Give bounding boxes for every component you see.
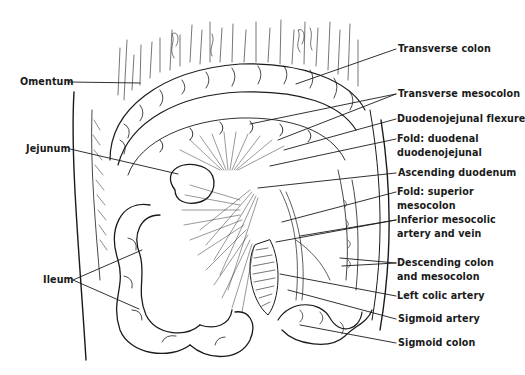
label-jejunum: Jejunum (26, 143, 71, 155)
label-sigmoid-artery: Sigmoid artery (398, 313, 480, 325)
label-omentum: Omentum (20, 76, 74, 88)
label-fold-duodenal-line2: duodenojejunal (397, 147, 482, 159)
label-ascending-duodenum: Ascending duodenum (398, 167, 516, 179)
label-sigmoid-colon: Sigmoid colon (398, 337, 475, 349)
mesocolic-vessels (280, 190, 330, 300)
left-wall (73, 92, 86, 360)
mesentery-fan (180, 132, 284, 312)
omentum-strands (118, 20, 358, 100)
right-wall (380, 120, 389, 330)
label-fold-superior: Fold: superior (397, 186, 474, 198)
label-inferior-mesocolic: Inferior mesocolic (397, 214, 496, 226)
label-descending-colon-line2: and mesocolon (397, 271, 480, 283)
transverse-colon (110, 64, 365, 165)
label-left-colic-artery: Left colic artery (397, 290, 485, 302)
label-inferior-mesocolic-line2: artery and vein (397, 228, 482, 240)
label-transverse-colon: Transverse colon (398, 43, 491, 55)
label-descending-colon: Descending colon (397, 257, 494, 269)
label-transverse-mesocolon: Transverse mesocolon (398, 88, 520, 100)
duodenal-recess (250, 240, 278, 315)
label-duodenojejunal-flexure: Duodenojejunal flexure (397, 113, 525, 125)
sigmoid-colon (278, 170, 372, 344)
small-intestine-loops (115, 164, 253, 356)
label-ileum: Ileum (43, 274, 74, 286)
label-fold-superior-line2: mesocolon (397, 200, 456, 212)
label-fold-duodenal: Fold: duodenal (397, 133, 479, 145)
